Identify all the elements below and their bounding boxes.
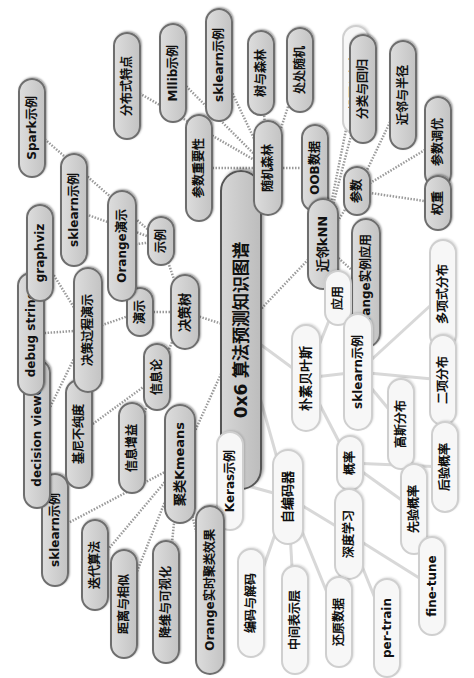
mindmap-node-rf-rand[interactable]: 处处随机 xyxy=(286,27,314,113)
mindmap-node-nb-gauss[interactable]: 高斯分布 xyxy=(387,378,415,470)
mindmap-node-dt-ex[interactable]: 示例 xyxy=(147,216,175,266)
mindmap-node-ae-enc[interactable]: 编码与解码 xyxy=(237,548,265,658)
mindmap-node-nb-post[interactable]: 后验概率 xyxy=(431,421,459,513)
mindmap-node-nb-binom[interactable]: 二项分布 xyxy=(429,334,457,426)
mindmap-node-km-dist[interactable]: 距离与相似 xyxy=(110,549,138,659)
mindmap-node-km[interactable]: 聚类Kmeans xyxy=(164,404,196,524)
mindmap-node-knn-cls2[interactable]: 分类与回归 xyxy=(349,34,377,144)
mindmap-node-dt-proc[interactable]: 决策过程演示 xyxy=(73,267,103,393)
mindmap-node-km-iter[interactable]: 迭代算法 xyxy=(81,519,109,611)
mindmap-node-knn-param[interactable]: 参数 xyxy=(343,166,371,216)
mindmap-node-rf[interactable]: 随机森林 xyxy=(253,120,283,216)
mindmap-node-ae-restore[interactable]: 还原数据 xyxy=(325,576,353,668)
mindmap-node-ae-mid[interactable]: 中间表示层 xyxy=(281,565,309,675)
mindmap-node-nb-sk[interactable]: sklearn示例 xyxy=(343,313,373,431)
mindmap-node-ae-deep[interactable]: 深度学习 xyxy=(334,488,364,580)
mindmap-node-nb-multi[interactable]: 多项式分布 xyxy=(429,239,457,349)
mindmap-node-dt-gini[interactable]: 基尼不纯度 xyxy=(65,379,93,489)
mindmap-node-dt-orange[interactable]: Orange演示 xyxy=(107,190,137,302)
mindmap-node-rf-tree[interactable]: 树与森林 xyxy=(247,30,275,116)
mindmap-node-dt[interactable]: 决策树 xyxy=(170,274,200,350)
mindmap-node-dt-spark[interactable]: Spark示例 xyxy=(18,78,46,178)
mindmap-node-ae-pre[interactable]: per-train xyxy=(373,578,401,678)
mindmap-node-km-vis[interactable]: 降维与可视化 xyxy=(152,540,180,664)
mindmap-node-dt-gain[interactable]: 信息增益 xyxy=(118,402,146,494)
mindmap-node-rf-mllib[interactable]: Mllib示例 xyxy=(159,23,187,123)
mindmap-node-knn-weight[interactable]: 权重 xyxy=(424,175,452,231)
mindmap-node-rf-sklearn[interactable]: sklearn示例 xyxy=(205,8,233,122)
mindmap-node-nb[interactable]: 朴素贝叶斯 xyxy=(291,324,321,432)
mindmap-node-knn-radius[interactable]: 近邻与半径 xyxy=(389,40,417,150)
mindmap-node-km-orange[interactable]: Orange实时聚类效果 xyxy=(195,505,225,675)
mindmap-node-dt-info[interactable]: 信息论 xyxy=(143,343,171,411)
mindmap-node-rf-dist[interactable]: 分布式特点 xyxy=(113,32,141,140)
mindmap-node-dt-graphviz[interactable]: graphviz xyxy=(26,204,54,302)
mindmap-node-dt-sk[interactable]: sklearn示例 xyxy=(60,153,88,267)
mindmap-node-rf-imp[interactable]: 参数重要性 xyxy=(185,114,213,222)
mindmap-node-ae[interactable]: 自编码器 xyxy=(272,449,304,545)
mindmap-node-nb-prob[interactable]: 概率 xyxy=(336,435,364,491)
mindmap-node-ae-fine[interactable]: fine-tune xyxy=(418,536,446,636)
